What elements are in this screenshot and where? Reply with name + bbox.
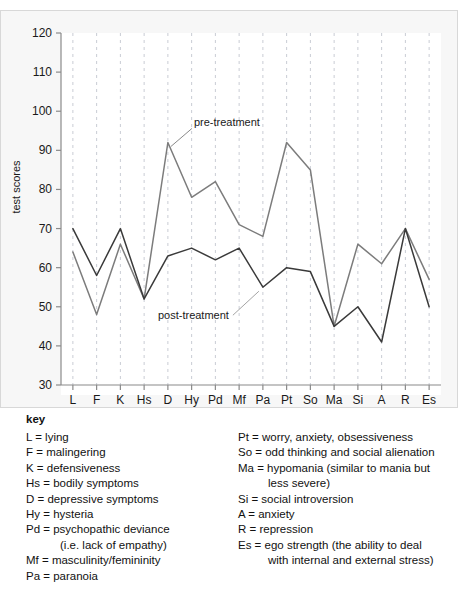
x-tick-label: F [93, 393, 100, 407]
x-tick-label: So [303, 393, 318, 407]
key-title: key [26, 412, 45, 427]
key-right-item-text: Es = ego strength (the ability to deal [238, 539, 422, 551]
x-tick-label: Ma [326, 393, 343, 407]
key-right-item: So = odd thinking and social alienation [238, 445, 458, 460]
y-tick-label: 110 [33, 65, 52, 79]
y-tick-label: 50 [39, 300, 53, 314]
x-tick-label: D [164, 393, 173, 407]
key-right-item: A = anxiety [238, 507, 458, 522]
key-left-item-text: Hs = bodily symptoms [26, 477, 139, 489]
key-left-item-text: Pa = paranoia [26, 570, 98, 582]
key-right-item: Pt = worry, anxiety, obsessiveness [238, 430, 458, 445]
x-tick-label: A [378, 393, 386, 407]
key-left-item: Hs = bodily symptoms [26, 476, 236, 491]
key-left-item: Mf = masculinity/femininity [26, 553, 236, 568]
key-right-item-text: Si = social introversion [238, 493, 353, 505]
key-right-item-text: So = odd thinking and social alienation [238, 446, 435, 458]
key-left-item: Pd = psychopathic deviance(i.e. lack of … [26, 522, 236, 553]
key-left-item-text: Hy = hysteria [26, 508, 93, 520]
key-left-item-text: K = defensiveness [26, 462, 120, 474]
chart-panel: test scores 30405060708090100110120LFKHs… [0, 10, 458, 408]
key-right-item-continuation: with internal and external stress) [238, 553, 458, 568]
key-right-item: R = repression [238, 522, 458, 537]
y-tick-label: 120 [32, 26, 52, 40]
y-tick-label: 100 [32, 104, 52, 118]
y-tick-label: 80 [39, 182, 53, 196]
key-right-item-text: Pt = worry, anxiety, obsessiveness [238, 431, 413, 443]
key-left-item: Hy = hysteria [26, 507, 236, 522]
key-column-right: Pt = worry, anxiety, obsessivenessSo = o… [238, 430, 458, 569]
x-tick-label: Es [422, 393, 436, 407]
key-left-item: L = lying [26, 430, 236, 445]
x-tick-label: Hy [184, 393, 199, 407]
y-tick-label: 60 [39, 261, 53, 275]
key-left-item-continuation: (i.e. lack of empathy) [26, 538, 236, 553]
key-right-item: Si = social introversion [238, 492, 458, 507]
x-tick-label: Mf [232, 393, 246, 407]
x-tick-label: L [70, 393, 77, 407]
key-left-item-text: Mf = masculinity/femininity [26, 554, 161, 566]
y-tick-label: 30 [39, 378, 53, 392]
key-right-item-text: R = repression [238, 523, 313, 535]
key-left-item: D = depressive symptoms [26, 492, 236, 507]
key-right-item-continuation: less severe) [238, 476, 458, 491]
x-tick-label: Pd [208, 393, 223, 407]
key-left-item-text: D = depressive symptoms [26, 493, 159, 505]
key-right-item-text: Ma = hypomania (similar to mania but [238, 462, 430, 474]
key-right-item: Es = ego strength (the ability to dealwi… [238, 538, 458, 569]
key-left-item-text: F = malingering [26, 446, 106, 458]
key-left-item-text: Pd = psychopathic deviance [26, 523, 170, 535]
key-column-left: L = lyingF = malingeringK = defensivenes… [26, 430, 236, 584]
x-tick-label: K [116, 393, 124, 407]
line-chart-svg: 30405060708090100110120LFKHsDHyPdMfPaPtS… [1, 11, 459, 409]
x-tick-label: Pa [256, 393, 271, 407]
y-tick-label: 40 [39, 339, 53, 353]
clipped-heading-strip [0, 0, 460, 10]
key-left-item: F = malingering [26, 445, 236, 460]
y-tick-label: 70 [39, 222, 53, 236]
x-tick-label: R [401, 393, 410, 407]
x-tick-label: Si [353, 393, 364, 407]
key-left-item: K = defensiveness [26, 461, 236, 476]
x-tick-label: Hs [137, 393, 152, 407]
post-treatment-annotation: post-treatment [158, 309, 229, 321]
key-right-item-text: A = anxiety [238, 508, 295, 520]
figure-root: test scores 30405060708090100110120LFKHs… [0, 0, 460, 606]
chart-key: key L = lyingF = malingeringK = defensiv… [0, 410, 460, 606]
y-tick-label: 90 [39, 143, 53, 157]
key-left-item: Pa = paranoia [26, 569, 236, 584]
x-tick-label: Pt [281, 393, 293, 407]
key-left-item-text: L = lying [26, 431, 69, 443]
key-right-item: Ma = hypomania (similar to mania butless… [238, 461, 458, 492]
pre-treatment-annotation: pre-treatment [194, 116, 260, 128]
